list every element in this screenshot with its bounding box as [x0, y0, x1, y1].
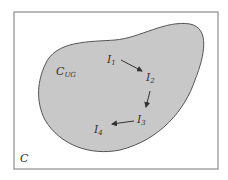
diagram-canvas: CUG I1 I2 I3 I4 C — [0, 0, 228, 180]
outer-set-label: C — [20, 152, 29, 165]
